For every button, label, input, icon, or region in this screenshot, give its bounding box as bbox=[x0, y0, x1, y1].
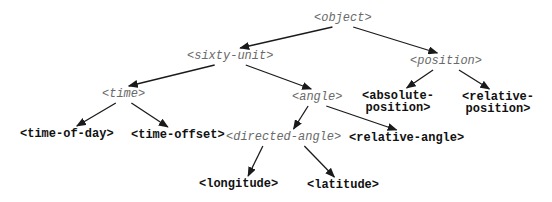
node-object: <object> bbox=[314, 12, 372, 24]
node-position: <position> bbox=[410, 55, 482, 67]
node-longitude: <longitude> bbox=[199, 178, 278, 190]
node-angle: <angle> bbox=[292, 91, 342, 103]
edge-object-to-sixty-unit bbox=[240, 27, 332, 48]
class-hierarchy-diagram: <object> <sixty-unit> <position> <time> … bbox=[0, 0, 552, 202]
node-directed-angle: <directed-angle> bbox=[226, 131, 341, 143]
node-relative-position-line-2: position> bbox=[462, 103, 534, 115]
node-time-of-day: <time-of-day> bbox=[20, 128, 114, 140]
node-latitude: <latitude> bbox=[307, 179, 379, 191]
node-relative-angle: <relative-angle> bbox=[349, 132, 464, 144]
edge-sixty-unit-to-time bbox=[129, 65, 215, 86]
edge-angle-to-directed-angle bbox=[294, 106, 309, 129]
edge-position-to-absolute-position bbox=[407, 70, 433, 88]
node-absolute-position-line-2: position> bbox=[362, 102, 434, 114]
node-relative-position: <relative- position> bbox=[462, 91, 534, 115]
edge-directed-angle-to-latitude bbox=[304, 146, 334, 177]
node-absolute-position: <absolute- position> bbox=[362, 90, 434, 114]
edge-directed-angle-to-longitude bbox=[248, 146, 263, 176]
node-time: <time> bbox=[102, 88, 145, 100]
edge-time-to-time-of-day bbox=[77, 103, 116, 126]
edge-time-to-time-offset bbox=[131, 103, 167, 127]
node-time-offset: <time-offset> bbox=[131, 129, 225, 141]
node-sixty-unit: <sixty-unit> bbox=[187, 50, 273, 62]
edge-position-to-relative-position bbox=[459, 70, 489, 89]
edge-object-to-position bbox=[353, 27, 437, 53]
edge-sixty-unit-to-angle bbox=[246, 65, 311, 89]
